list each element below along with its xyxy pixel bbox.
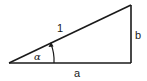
hypotenuse-line bbox=[9, 5, 131, 63]
triangle-diagram: 1 b a α bbox=[0, 0, 147, 81]
vertical-side-label: b bbox=[135, 29, 141, 41]
hypotenuse-label: 1 bbox=[57, 22, 63, 34]
angle-arc bbox=[51, 44, 54, 63]
angle-label: α bbox=[34, 51, 41, 62]
horizontal-side-label: a bbox=[74, 67, 81, 79]
